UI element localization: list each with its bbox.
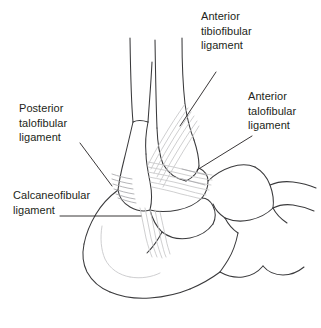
calcaneus-bone	[83, 190, 304, 298]
label-anterior-talofibular-ligament: Anterior talofibular ligament	[248, 89, 296, 133]
label-line-2: tibiofibular	[201, 24, 252, 39]
label-line-2: talofibular	[19, 116, 67, 131]
label-line-3: ligament	[201, 38, 252, 53]
label-line-3: ligament	[248, 118, 296, 133]
label-calcaneofibular-ligament: Calcaneofibular ligament	[13, 188, 90, 217]
label-line-3: ligament	[19, 130, 67, 145]
posterior-talofibular-ligament-fibers	[112, 174, 136, 203]
label-line-1: Anterior	[248, 89, 296, 104]
label-line-1: Calcaneofibular	[13, 188, 90, 203]
navicular-bone	[208, 165, 273, 221]
anatomy-illustration	[0, 0, 321, 328]
label-anterior-tibiofibular-ligament: Anterior tibiofibular ligament	[201, 9, 252, 53]
anterior-tibiofibular-ligament-fibers	[148, 104, 199, 187]
label-line-2: talofibular	[248, 104, 296, 119]
label-line-1: Anterior	[201, 9, 252, 24]
cuneiform-bones	[225, 182, 316, 233]
calcaneofibular-ligament-fibers	[140, 208, 170, 258]
fibula-bone	[118, 38, 152, 211]
leader-anterior-tibiofibular	[180, 72, 216, 126]
leader-posterior-talofibular	[80, 143, 112, 186]
label-line-2: ligament	[13, 203, 90, 218]
label-posterior-talofibular-ligament: Posterior talofibular ligament	[19, 101, 67, 145]
label-line-1: Posterior	[19, 101, 67, 116]
anterior-talofibular-ligament-fibers	[148, 162, 212, 199]
anatomy-figure: Anterior tibiofibular ligament Anterior …	[0, 0, 321, 328]
